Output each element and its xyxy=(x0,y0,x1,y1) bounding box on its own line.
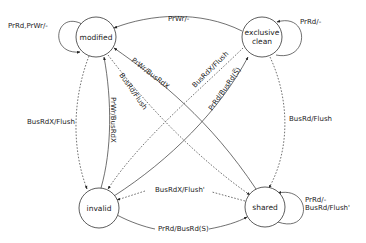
edge-label-exclusive-to-shared: BusRd/Flush xyxy=(289,115,332,123)
mesi-state-diagram: PrRd,PrWr/- PrRd/- PrRd/- BusRd/Flush' P… xyxy=(0,0,366,243)
shared-self-label-1: PrRd/- xyxy=(305,196,327,204)
state-shared: shared xyxy=(245,187,285,227)
modified-self-label: PrRd,PrWr/- xyxy=(8,22,48,30)
exclusive-self-loop: PrRd/- xyxy=(276,18,322,56)
state-exclusive-clean: exclusive clean xyxy=(242,17,282,57)
edge-invalid-to-modified: PrWr/BusRdX xyxy=(101,57,117,188)
shared-self-label-2: BusRd/Flush' xyxy=(305,204,350,212)
shared-self-loop: PrRd/- BusRd/Flush' xyxy=(278,192,350,224)
state-label-modified: modified xyxy=(80,33,113,42)
edge-exclusive-to-invalid: BusRdX/Flush xyxy=(108,48,243,189)
edge-shared-to-invalid: BusRdX/Flush' xyxy=(117,186,245,201)
state-label-invalid: invalid xyxy=(87,204,112,213)
edge-label-modified-to-shared: BusRd/Flush xyxy=(117,72,148,112)
state-invalid: invalid xyxy=(79,188,119,228)
edge-label-invalid-to-modified: PrWr/BusRdX xyxy=(109,97,117,143)
state-modified: modified xyxy=(76,17,116,57)
edge-label-shared-to-modified: PrWr/BusRdX xyxy=(130,56,171,91)
state-label-exclusive: exclusive xyxy=(245,28,280,37)
edge-label-modified-to-invalid: BusRdX/Flush xyxy=(27,118,75,126)
edge-label-invalid-to-shared: PrRd/BusRd(S) xyxy=(158,225,209,233)
edge-exclusive-to-shared: BusRd/Flush xyxy=(269,57,332,188)
edge-modified-to-invalid: BusRdX/Flush xyxy=(27,56,89,189)
edge-label-prwr: PrWr/- xyxy=(168,15,190,23)
edge-exclusive-to-modified: PrWr/- xyxy=(114,15,242,31)
state-label-clean: clean xyxy=(252,37,272,46)
edge-invalid-to-exclusive: PrRd/BusRd(S̅) xyxy=(114,57,248,196)
modified-self-loop: PrRd,PrWr/- xyxy=(8,21,82,52)
edge-label-shared-to-invalid: BusRdX/Flush' xyxy=(155,186,205,194)
state-label-shared: shared xyxy=(252,203,278,212)
exclusive-self-label: PrRd/- xyxy=(300,18,322,26)
edge-invalid-to-shared: PrRd/BusRd(S) xyxy=(117,215,247,233)
